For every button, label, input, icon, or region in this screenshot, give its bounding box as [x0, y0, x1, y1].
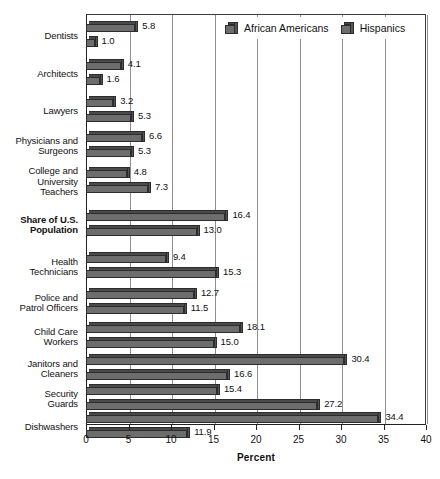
- bar-top-face: [89, 96, 116, 99]
- x-tick-10: [171, 425, 172, 430]
- bar-group: 6.65.3: [86, 131, 426, 161]
- category-label-line: Population: [0, 225, 78, 236]
- bar-top-face: [89, 225, 200, 228]
- bar: 18.1: [86, 322, 244, 333]
- cube-swatch: [225, 22, 238, 34]
- bar-side-face: [127, 167, 130, 178]
- bar-value-label: 9.4: [173, 251, 186, 262]
- bar: 9.4: [86, 252, 170, 263]
- x-tick-label-35: 35: [369, 434, 399, 445]
- bar-top-face: [89, 288, 197, 291]
- bar-face: [86, 185, 148, 193]
- bar-side-face: [214, 337, 217, 348]
- bar-top-face: [89, 59, 124, 62]
- bar-group: 12.711.5: [86, 288, 426, 318]
- bar-value-label: 30.4: [351, 353, 369, 364]
- bar-group: 16.413.0: [86, 210, 426, 240]
- x-tick-40: [426, 425, 427, 430]
- bar-side-face: [197, 225, 200, 236]
- bar-side-face: [121, 59, 124, 70]
- bar-value-label: 3.2: [120, 95, 133, 106]
- bar-top-face: [89, 384, 220, 387]
- bar-side-face: [113, 96, 116, 107]
- x-tick-label-5: 5: [114, 434, 144, 445]
- category-label-line: Architects: [0, 69, 78, 80]
- bar-face: [86, 255, 166, 263]
- legend-item-hispanics[interactable]: Hispanics: [335, 17, 412, 39]
- category-label-line: Dentists: [0, 31, 78, 42]
- bar-side-face: [131, 111, 134, 122]
- bar: 15.4: [86, 384, 221, 395]
- bars-layer: 5.81.04.11.63.25.36.65.34.87.316.413.09.…: [86, 14, 426, 425]
- bar-value-label: 1.0: [102, 35, 115, 46]
- x-tick-label-20: 20: [241, 434, 271, 445]
- bar-side-face: [378, 412, 381, 423]
- bar-side-face: [225, 210, 228, 221]
- category-label-lawyers: Lawyers: [0, 106, 78, 117]
- bar-side-face: [95, 36, 98, 47]
- x-axis-tick-labels: 0510152025303540: [0, 434, 440, 448]
- bar-group: 15.427.2: [86, 384, 426, 414]
- bar-value-label: 5.3: [138, 110, 151, 121]
- legend-label: African Americans: [244, 22, 329, 34]
- category-label-line: Dishwashers: [0, 422, 78, 433]
- bar: 1.6: [86, 74, 104, 85]
- bar-top-face: [89, 399, 320, 402]
- cube-swatch: [341, 22, 354, 34]
- bar-face: [86, 402, 317, 410]
- x-tick-35: [384, 425, 385, 430]
- bar-value-label: 16.6: [234, 368, 252, 379]
- category-label-share-of-u-s-population: Share of U.S.Population: [0, 215, 78, 236]
- bar-side-face: [142, 131, 145, 142]
- category-label-line: Guards: [0, 399, 78, 410]
- gridline-40: [427, 15, 428, 424]
- bar-face: [86, 357, 344, 365]
- bar-side-face: [240, 322, 243, 333]
- bar-top-face: [89, 131, 145, 134]
- bar: 16.4: [86, 210, 229, 221]
- bar-top-face: [89, 337, 217, 340]
- legend-item-african-americans[interactable]: African Americans: [219, 17, 335, 39]
- x-tick-label-30: 30: [326, 434, 356, 445]
- bar-face: [86, 170, 127, 178]
- x-tick-label-15: 15: [199, 434, 229, 445]
- bar-face: [86, 228, 197, 236]
- category-label-line: Patrol Officers: [0, 303, 78, 314]
- x-tick-15: [214, 425, 215, 430]
- bar-top-face: [89, 412, 381, 415]
- category-label-college-and-university-teachers: College andUniversityTeachers: [0, 166, 78, 198]
- bar-top-face: [89, 210, 228, 213]
- x-tick-25: [299, 425, 300, 430]
- category-label-line: Technicians: [0, 267, 78, 278]
- bar-side-face: [344, 354, 347, 365]
- bar-top-face: [89, 252, 169, 255]
- bar: 12.7: [86, 288, 198, 299]
- bar-face: [86, 24, 135, 32]
- category-label-line: Surgeons: [0, 146, 78, 157]
- x-tick-0: [86, 425, 87, 430]
- category-label-physicians-and-surgeons: Physicians andSurgeons: [0, 136, 78, 157]
- bar: 30.4: [86, 354, 348, 365]
- bar-face: [86, 114, 131, 122]
- category-label-architects: Architects: [0, 69, 78, 80]
- category-label-police-and-patrol-officers: Police andPatrol Officers: [0, 293, 78, 314]
- bar-face: [86, 270, 216, 278]
- bar-value-label: 13.0: [204, 224, 222, 235]
- bar-value-label: 12.7: [201, 287, 219, 298]
- bar-top-face: [89, 303, 187, 306]
- bar: 3.2: [86, 96, 117, 107]
- bar-side-face: [217, 384, 220, 395]
- bar-value-label: 4.1: [128, 58, 141, 69]
- bar-top-face: [89, 354, 347, 357]
- bar-group: 3.25.3: [86, 96, 426, 126]
- bar-face: [86, 99, 113, 107]
- bar: 27.2: [86, 399, 321, 410]
- bar-group: 9.415.3: [86, 252, 426, 282]
- category-label-line: Teachers: [0, 187, 78, 198]
- bar: 4.8: [86, 167, 131, 178]
- bar-value-label: 1.6: [107, 73, 120, 84]
- bar: 5.8: [86, 21, 139, 32]
- bar-face: [86, 340, 214, 348]
- x-axis-ticks: [86, 425, 426, 431]
- bar-group: 30.416.6: [86, 354, 426, 384]
